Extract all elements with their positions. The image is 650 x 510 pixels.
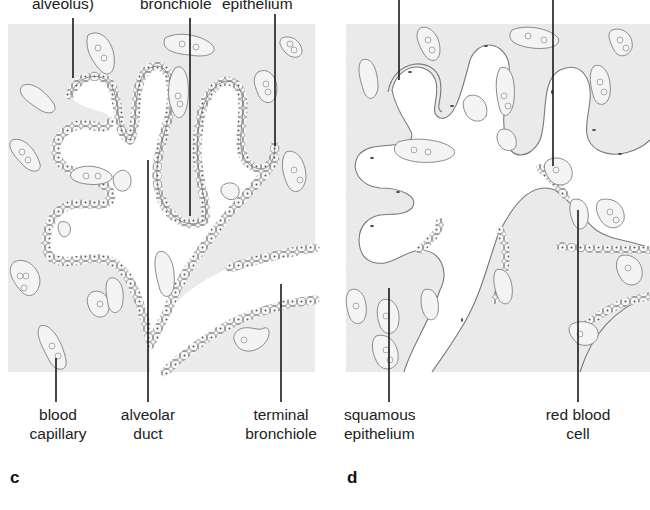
label-alveolar-duct-line2: duct (112, 424, 184, 443)
label-red-blood-cell-line1: red blood (530, 405, 626, 424)
label-blood-capillary-line2: capillary (26, 424, 90, 443)
label-squamous-epithelium: squamous epithelium (344, 405, 436, 443)
label-terminal-bronchiole: terminal bronchiole (236, 405, 326, 443)
panel-c-tissue (8, 24, 315, 372)
label-alveolar-duct: alveolar duct (112, 405, 184, 443)
label-bronchiole-top: bronchiole (140, 0, 212, 13)
label-squamous-epithelium-line1: squamous (344, 405, 436, 424)
label-terminal-bronchiole-line1: terminal (236, 405, 326, 424)
panel-letter-c: c (10, 468, 19, 488)
label-alveolus: alveolus) (32, 0, 94, 13)
label-red-blood-cell-line2: cell (530, 424, 626, 443)
label-terminal-bronchiole-line2: bronchiole (236, 424, 326, 443)
label-epithelium-top: epithelium (222, 0, 293, 13)
label-alveolar-duct-line1: alveolar (112, 405, 184, 424)
panel-letter-d: d (347, 468, 357, 488)
label-blood-capillary: blood capillary (26, 405, 90, 443)
panel-d-tissue (346, 24, 650, 372)
label-blood-capillary-line1: blood (26, 405, 90, 424)
label-squamous-epithelium-line2: epithelium (344, 424, 436, 443)
label-red-blood-cell: red blood cell (530, 405, 626, 443)
